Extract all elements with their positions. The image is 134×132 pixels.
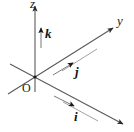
unit-vector-i-label: i: [74, 110, 78, 123]
unit-vector-j-arrow: [53, 63, 73, 75]
vector-diagram-figure: z y k j i O: [0, 0, 134, 132]
unit-vector-i-arrow: [54, 96, 74, 106]
coordinate-axes-svg: [0, 0, 134, 132]
origin-dot: [33, 75, 36, 78]
y-axis-label: y: [117, 14, 123, 27]
unit-vector-j-label: j: [75, 65, 79, 78]
unit-vector-k-label: k: [45, 27, 52, 40]
y-guide-line: [62, 49, 97, 71]
z-axis-label: z: [30, 0, 35, 10]
x-guide-line: [63, 102, 98, 121]
origin-label: O: [22, 82, 31, 94]
